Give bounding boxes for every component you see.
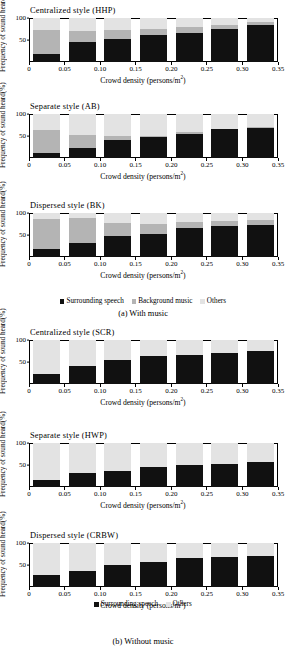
x-axis-label-close: ) — [183, 501, 186, 510]
x-axis-label: Crowd density (persons/m2) — [0, 269, 286, 280]
x-tick-mark — [100, 587, 101, 590]
plot-area: 1005000.050.100.150.200.250.300.35 — [29, 18, 278, 62]
bar-segment-s3 — [211, 543, 238, 557]
x-tick-mark — [171, 384, 172, 387]
x-tick-mark — [29, 62, 30, 65]
legend-label: Others — [207, 297, 226, 305]
bar-segment-s3 — [176, 213, 203, 222]
bar-segment-s2 — [69, 135, 96, 148]
x-tick-mark — [206, 487, 207, 490]
bar-segment-s2 — [69, 31, 96, 42]
bar-series — [29, 213, 278, 257]
bar-segment-s3 — [104, 543, 131, 565]
x-tick-mark — [100, 257, 101, 260]
bar-segment-s1 — [140, 234, 167, 257]
x-tick-mark — [242, 384, 243, 387]
x-tick-mark — [29, 257, 30, 260]
bar-segment-s1 — [69, 366, 96, 384]
x-tick-mark — [171, 158, 172, 161]
bar-1 — [33, 114, 60, 158]
bar-2 — [69, 543, 96, 587]
bar-segment-s1 — [104, 39, 131, 62]
x-axis-label: Crowd density (persons/m2) — [0, 74, 286, 85]
x-axis-label-close: ) — [183, 172, 186, 181]
bar-6 — [211, 340, 238, 384]
x-tick-mark — [206, 257, 207, 260]
bar-segment-s1 — [140, 356, 167, 384]
bar-7 — [247, 340, 274, 384]
bar-segment-s1 — [211, 29, 238, 62]
x-tick-mark — [64, 587, 65, 590]
x-tick-mark — [242, 158, 243, 161]
plot-area: 1005000.050.100.150.200.250.300.35 — [29, 114, 278, 158]
bar-series — [29, 543, 278, 587]
plot-area: 1005000.050.100.150.200.250.300.35 — [29, 340, 278, 384]
chart-panel-6: Dispersed style (CRBW)Frequency of sound… — [0, 531, 286, 609]
bar-segment-s1 — [69, 571, 96, 587]
x-tick-mark — [171, 257, 172, 260]
bar-segment-s3 — [140, 543, 167, 562]
legend-label: Background music — [138, 297, 192, 305]
legend-swatch-icon — [166, 602, 171, 607]
bar-segment-s1 — [104, 140, 131, 158]
bar-segment-s3 — [176, 443, 203, 465]
bar-1 — [33, 340, 60, 384]
bar-segment-s1 — [211, 557, 238, 587]
bar-segment-s3 — [211, 213, 238, 220]
chart-title: Centralized style (HHP) — [30, 6, 116, 15]
bar-segment-s1 — [33, 575, 60, 587]
bar-2 — [69, 443, 96, 487]
bar-2 — [69, 18, 96, 62]
bar-segment-s1 — [140, 467, 167, 487]
bar-1 — [33, 18, 60, 62]
bar-segment-s3 — [33, 443, 60, 480]
legend-label: Surrounding speech — [66, 297, 123, 305]
bar-5 — [176, 340, 203, 384]
bar-5 — [176, 213, 203, 257]
x-tick-mark — [278, 587, 279, 590]
bar-segment-s1 — [104, 471, 131, 487]
bar-segment-s1 — [176, 33, 203, 62]
bar-segment-s3 — [140, 443, 167, 467]
x-tick-mark — [64, 384, 65, 387]
bar-5 — [176, 114, 203, 158]
plot-area: 1005000.050.100.150.200.250.300.35 — [29, 213, 278, 257]
bar-segment-s1 — [211, 353, 238, 384]
bar-segment-s3 — [176, 340, 203, 355]
bar-segment-s3 — [104, 114, 131, 136]
x-tick-mark — [29, 384, 30, 387]
x-axis-label-close: ) — [183, 76, 186, 85]
plot-area: 1005000.050.100.150.200.250.300.35 — [29, 443, 278, 487]
bar-segment-s3 — [211, 443, 238, 464]
bar-segment-s1 — [211, 226, 238, 257]
bar-4 — [140, 18, 167, 62]
bar-segment-s1 — [176, 465, 203, 487]
bar-segment-s1 — [104, 565, 131, 587]
bar-4 — [140, 443, 167, 487]
bar-5 — [176, 18, 203, 62]
bar-segment-s3 — [69, 443, 96, 473]
bar-segment-s2 — [69, 218, 96, 244]
bar-segment-s2 — [104, 30, 131, 39]
legend-swatch-icon — [94, 602, 99, 607]
bar-segment-s3 — [247, 543, 274, 556]
bar-2 — [69, 114, 96, 158]
x-tick-mark — [242, 62, 243, 65]
x-tick-mark — [206, 158, 207, 161]
bar-segment-s2 — [104, 223, 131, 236]
bar-segment-s1 — [247, 351, 274, 384]
bar-4 — [140, 213, 167, 257]
x-tick-mark — [135, 257, 136, 260]
y-axis-label: Frequency of sound heard(%) — [0, 110, 11, 168]
bar-1 — [33, 213, 60, 257]
bar-segment-s3 — [104, 18, 131, 30]
x-tick-mark — [29, 587, 30, 590]
bar-segment-s3 — [140, 114, 167, 136]
x-tick-mark — [64, 257, 65, 260]
bar-6 — [211, 114, 238, 158]
chart-panel-1: Centralized style (HHP)Frequency of soun… — [0, 6, 286, 84]
x-tick-mark — [242, 587, 243, 590]
x-tick-mark — [206, 384, 207, 387]
bar-6 — [211, 443, 238, 487]
bar-segment-s1 — [69, 473, 96, 487]
